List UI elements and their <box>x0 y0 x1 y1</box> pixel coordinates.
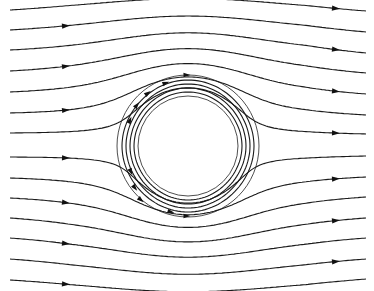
arrow-icon <box>332 259 340 265</box>
arrow-icon <box>332 5 340 11</box>
streamlines <box>10 0 366 291</box>
streamline-wrap <box>134 92 242 146</box>
streamline <box>10 33 366 53</box>
arrow-icon <box>62 155 70 161</box>
arrow-icon <box>332 176 340 182</box>
streamline-wrap <box>122 80 254 146</box>
arrow-icon <box>62 23 70 29</box>
streamline-wrap <box>122 146 254 212</box>
arrow-icon <box>332 218 340 224</box>
streamline <box>10 218 366 242</box>
streamline <box>10 259 366 274</box>
cylinder-inner-circle <box>138 96 238 196</box>
streamline <box>10 238 366 257</box>
cylinder <box>117 75 259 217</box>
streamline-wrap <box>134 146 242 200</box>
flow-diagram <box>0 0 374 291</box>
arrow-icon <box>332 88 341 94</box>
streamline <box>10 49 366 73</box>
streamline <box>10 0 366 11</box>
arrow-icon <box>62 107 70 113</box>
arrow-icon <box>332 130 340 135</box>
arrow-icon <box>144 89 152 97</box>
arrow-icon <box>62 281 70 287</box>
